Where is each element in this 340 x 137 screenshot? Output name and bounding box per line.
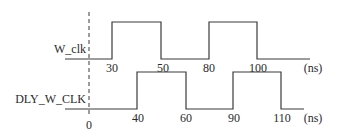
- time-zero-label: 0: [86, 118, 92, 132]
- signal-w-clk: W_clk 30 50 80 100 (ns): [54, 22, 322, 75]
- waveform-w-clk: [65, 22, 310, 59]
- edge-label: 40: [132, 111, 144, 125]
- edge-label: 30: [106, 61, 118, 75]
- signal-label-dly-w-clk: DLY_W_CLK: [15, 92, 86, 106]
- edge-label: 110: [273, 111, 291, 125]
- edge-label: 60: [180, 111, 192, 125]
- signal-label-w-clk: W_clk: [54, 42, 86, 56]
- waveform-dly-w-clk: [65, 72, 304, 109]
- edge-label: 100: [249, 61, 267, 75]
- edge-label: 90: [228, 111, 240, 125]
- unit-label: (ns): [304, 111, 323, 125]
- signal-dly-w-clk: DLY_W_CLK 40 60 90 110 (ns): [15, 72, 322, 125]
- edge-label: 50: [157, 61, 169, 75]
- timing-diagram: 0 W_clk 30 50 80 100 (ns) DLY_W_CLK 40 6…: [0, 0, 340, 137]
- unit-label: (ns): [304, 61, 323, 75]
- edge-label: 80: [203, 61, 215, 75]
